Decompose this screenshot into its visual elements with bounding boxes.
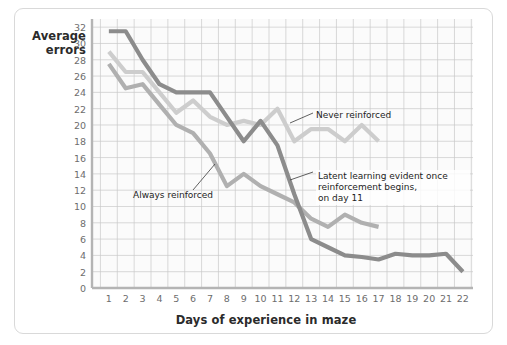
y-tick-label: 26 xyxy=(60,71,86,82)
plot-background xyxy=(92,19,473,288)
y-tick-label: 18 xyxy=(60,136,86,147)
y-tick-label: 24 xyxy=(60,87,86,98)
chart-figure: Average errors Days of experience in maz… xyxy=(0,0,507,345)
y-tick-label: 10 xyxy=(60,201,86,212)
annotation-never-reinforced: Never reinforced xyxy=(316,110,391,121)
y-tick-label: 2 xyxy=(60,266,86,277)
annotation-latent-learning: Latent learning evident once reinforceme… xyxy=(316,170,470,205)
annotation-always-reinforced: Always reinforced xyxy=(133,190,213,201)
y-tick-label: 30 xyxy=(60,38,86,49)
y-tick-label: 22 xyxy=(60,103,86,114)
y-tick-label: 14 xyxy=(60,168,86,179)
y-tick-label: 20 xyxy=(60,119,86,130)
y-tick-label: 32 xyxy=(60,22,86,33)
y-tick-label: 6 xyxy=(60,234,86,245)
y-tick-label: 16 xyxy=(60,152,86,163)
y-tick-label: 0 xyxy=(60,283,86,294)
y-tick-label: 12 xyxy=(60,185,86,196)
y-tick-label: 28 xyxy=(60,54,86,65)
y-tick-label: 8 xyxy=(60,217,86,228)
y-tick-label: 4 xyxy=(60,250,86,261)
x-tick-label: 22 xyxy=(452,293,474,304)
